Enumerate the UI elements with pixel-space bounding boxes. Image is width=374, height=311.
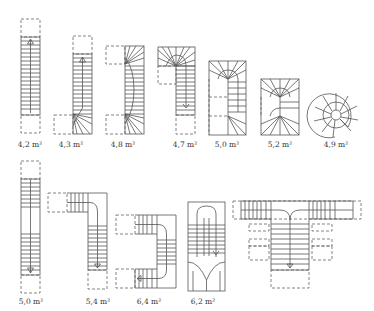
area-label-quarter-turn-bottom: 4,3 m² (59, 140, 83, 149)
stair-straight-landing (21, 161, 40, 293)
stair-U-landing (116, 215, 176, 288)
area-label-spiral: 4,9 m² (324, 140, 348, 149)
stair-curved-double (188, 202, 225, 291)
stair-half-turn (209, 61, 246, 135)
stair-quarter-turn-top (158, 47, 195, 134)
stair-T-imperial (233, 201, 361, 288)
area-label-half-turn: 5,0 m² (215, 140, 239, 149)
area-label-straight: 4,2 m² (18, 140, 42, 149)
area-label-U-landing: 6,4 m² (137, 297, 161, 306)
area-label-half-turn-winders: 5,2 m² (268, 140, 292, 149)
staircase-diagram (0, 0, 374, 311)
area-label-quarter-turn-top: 4,7 m² (173, 140, 197, 149)
stair-L-landing (48, 193, 107, 289)
stair-quarter-turn-bottom (54, 36, 92, 134)
stair-spiral (307, 93, 358, 138)
stair-double-quarter-turn (106, 46, 144, 134)
area-label-straight-landing: 5,0 m² (19, 297, 43, 306)
area-label-double-quarter-turn: 4,8 m² (111, 140, 135, 149)
stair-straight (21, 19, 40, 133)
area-label-curved-double: 6,2 m² (191, 297, 215, 306)
stair-half-turn-winders (261, 79, 299, 135)
area-label-L-landing: 5,4 m² (86, 297, 110, 306)
